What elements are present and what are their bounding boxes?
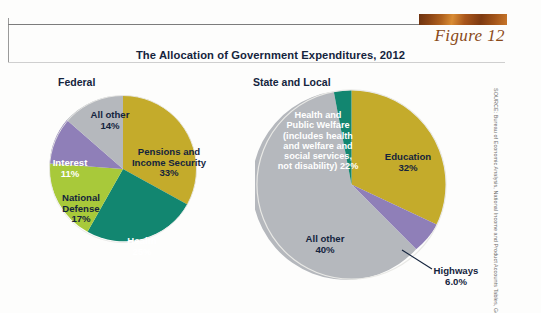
panel-title-state: State and Local [253,76,331,88]
figure-title: The Allocation of Government Expenditure… [0,49,541,61]
figure-container: Figure 12 The Allocation of Government E… [0,0,541,313]
pie-federal-svg [48,94,198,244]
source-note: SOURCE: Bureau of Economic Analysis, Nat… [492,88,500,288]
figure-number: Figure 12 [435,26,506,46]
header-bottom-rule [8,62,505,63]
pie-chart-state-local [255,88,448,281]
panel-title-federal: Federal [58,76,95,88]
decorative-corner-bar [419,14,507,25]
pie-chart-federal [48,94,198,244]
pie-state-svg [255,88,448,281]
